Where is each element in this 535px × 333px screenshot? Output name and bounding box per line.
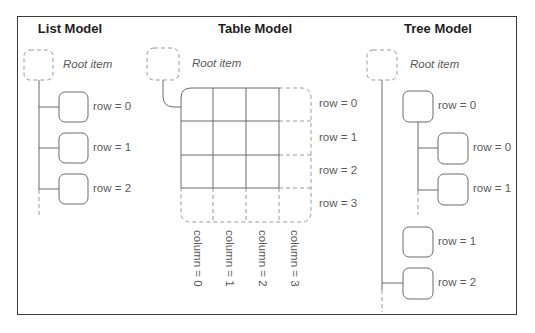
tree-row-0-child-0-box [438,133,468,164]
table-row-3-label: row = 3 [319,197,357,209]
table-model-graphic [147,48,311,222]
list-root-item-label: Root item [63,58,112,70]
tree-model-title: Tree Model [404,21,472,36]
list-row-1-box [59,133,88,163]
table-row-1-label: row = 1 [319,131,357,143]
list-model-title: List Model [38,21,102,36]
tree-row-0-child-1-box [438,174,468,205]
table-row-0-label: row = 0 [319,97,357,109]
table-root-connector [163,80,181,107]
tree-root-item-box [367,50,397,80]
tree-row-2-label: row = 2 [438,276,476,288]
table-column-2-label: column = 2 [257,230,269,287]
list-row-2-box [59,174,88,204]
table-model-title: Table Model [218,21,292,36]
table-row-2-label: row = 2 [319,164,357,176]
tree-row-2-box [403,268,433,299]
table-column-0-label: column = 0 [192,230,204,287]
list-row-0-label: row = 0 [93,100,131,112]
tree-row-1-label: row = 1 [438,235,476,247]
tree-row-0-label: row = 0 [438,99,476,111]
list-row-1-label: row = 1 [93,141,131,153]
tree-root-item-label: Root item [410,58,459,70]
tree-model-graphic [367,50,468,312]
table-column-3-label: column = 3 [289,230,301,287]
list-row-2-label: row = 2 [93,182,131,194]
tree-row-1-box [403,227,433,257]
list-row-0-box [59,92,88,122]
tree-row-0-child-0-label: row = 0 [473,141,511,153]
table-root-item-box [147,48,179,80]
list-root-item-box [24,50,53,80]
table-column-1-label: column = 1 [224,230,236,287]
tree-row-0-box [403,91,433,122]
table-grid-solid-region [181,88,279,188]
list-model-graphic [24,50,88,216]
table-root-item-label: Root item [192,57,241,69]
tree-row-0-child-1-label: row = 1 [473,182,511,194]
